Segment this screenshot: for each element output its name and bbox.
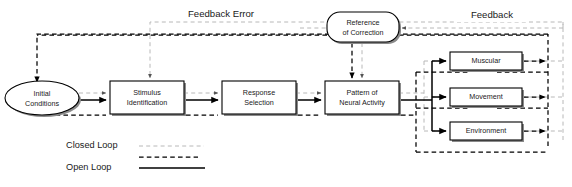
reference-of-correction-label-line1: Reference bbox=[346, 18, 379, 27]
response-selection-label-line2: Selection bbox=[244, 98, 274, 107]
node-initial-conditions[interactable]: Initial Conditions bbox=[5, 81, 81, 117]
legend: Closed Loop Open Loop bbox=[66, 140, 205, 172]
feedback-title: Feedback bbox=[471, 9, 513, 20]
legend-open-loop-label: Open Loop bbox=[66, 162, 111, 172]
legend-closed-loop-label: Closed Loop bbox=[66, 140, 118, 150]
stimulus-identification-label-line1: Stimulus bbox=[133, 88, 161, 97]
node-movement[interactable]: Movement bbox=[450, 88, 524, 108]
node-muscular[interactable]: Muscular bbox=[450, 52, 524, 72]
response-selection-label-line1: Response bbox=[243, 88, 275, 97]
initial-conditions-label-line2: Conditions bbox=[25, 99, 59, 108]
node-environment[interactable]: Environment bbox=[450, 122, 524, 142]
stimulus-identification-label-line2: Identification bbox=[127, 98, 167, 107]
reference-of-correction-label-line2: of Correction bbox=[342, 28, 383, 37]
node-reference-of-correction[interactable]: Reference of Correction bbox=[327, 12, 401, 44]
node-pattern-of-neural-activity[interactable]: Pattern of Neural Activity bbox=[325, 81, 401, 116]
pattern-of-neural-activity-label-line2: Neural Activity bbox=[339, 98, 385, 107]
muscular-label: Muscular bbox=[471, 56, 501, 65]
movement-label: Movement bbox=[469, 92, 503, 101]
initial-conditions-label-line1: Initial bbox=[34, 89, 51, 98]
diagram-canvas: Initial Conditions Stimulus Identificati… bbox=[0, 0, 572, 187]
feedback-error-title: Feedback Error bbox=[188, 8, 255, 19]
node-stimulus-identification[interactable]: Stimulus Identification bbox=[110, 81, 186, 116]
feedback-control-diagram: Initial Conditions Stimulus Identificati… bbox=[0, 0, 572, 187]
node-response-selection[interactable]: Response Selection bbox=[222, 81, 298, 116]
environment-label: Environment bbox=[466, 126, 506, 135]
pattern-of-neural-activity-label-line1: Pattern of bbox=[346, 88, 377, 97]
